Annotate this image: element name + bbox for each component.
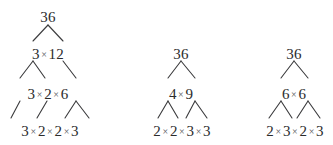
factor-value: 9 bbox=[185, 86, 193, 102]
multiplication-sign: × bbox=[177, 89, 186, 100]
factor-value: 3 bbox=[71, 123, 79, 139]
link-right-6b-to-3 bbox=[308, 101, 320, 118]
tree-right-level-2: 2×3×2×3 bbox=[266, 124, 323, 140]
factor-value: 2 bbox=[266, 123, 274, 139]
link-mid-4-to-2b bbox=[168, 101, 178, 118]
factor-value: 2 bbox=[299, 123, 307, 139]
tree-middle-level-2: 2×2×3×3 bbox=[153, 124, 210, 140]
factor-tree-diagram: 36 3×12 3×2×6 3×2×2×3 36 4×9 2×2×3×3 36 … bbox=[0, 0, 333, 145]
tree-right-level-1: 6×6 bbox=[282, 87, 306, 103]
link-mid-9-to-3a bbox=[186, 101, 195, 118]
factor-value: 3 bbox=[21, 123, 29, 139]
factor-value: 6 bbox=[282, 86, 290, 102]
multiplication-sign: × bbox=[274, 126, 283, 137]
multiplication-sign: × bbox=[290, 89, 299, 100]
link-right-6a-to-2 bbox=[269, 101, 281, 118]
multiplication-sign: × bbox=[178, 126, 187, 137]
multiplication-sign: × bbox=[40, 49, 49, 60]
tree-right-root: 36 bbox=[286, 47, 301, 62]
factor-value: 6 bbox=[298, 86, 306, 102]
factor-value: 3 bbox=[32, 46, 40, 62]
link-left-l2-3-to-3 bbox=[11, 101, 20, 118]
link-mid-root-to-4 bbox=[168, 61, 181, 78]
link-mid-4-to-2a bbox=[158, 101, 168, 118]
link-right-6b-to-2 bbox=[297, 101, 308, 118]
link-right-root-to-6b bbox=[294, 61, 308, 78]
link-left-3-to-3 bbox=[20, 61, 33, 78]
multiplication-sign: × bbox=[35, 89, 44, 100]
link-left-3-to-2 bbox=[33, 61, 45, 78]
link-mid-9-to-3b bbox=[195, 101, 207, 118]
link-left-root-to-12 bbox=[48, 25, 63, 41]
multiplication-sign: × bbox=[29, 126, 38, 137]
link-left-12-to-6 bbox=[63, 61, 76, 78]
tree-middle-level-1: 4×9 bbox=[169, 87, 193, 103]
multiplication-sign: × bbox=[307, 126, 316, 137]
multiplication-sign: × bbox=[194, 126, 203, 137]
factor-value: 2 bbox=[54, 123, 62, 139]
factor-value: 2 bbox=[153, 123, 161, 139]
link-right-6a-to-3 bbox=[281, 101, 292, 118]
factor-value: 3 bbox=[316, 123, 324, 139]
tree-left-level-2: 3×2×6 bbox=[28, 87, 69, 103]
factor-value: 3 bbox=[186, 123, 194, 139]
multiplication-sign: × bbox=[52, 89, 61, 100]
link-left-l2-6-to-3 bbox=[76, 101, 89, 118]
tree-middle-root: 36 bbox=[173, 47, 188, 62]
link-left-l2-6-to-2 bbox=[65, 101, 76, 118]
tree-left-root: 36 bbox=[40, 10, 55, 25]
link-mid-root-to-9 bbox=[181, 61, 195, 78]
multiplication-sign: × bbox=[161, 126, 170, 137]
factor-value: 3 bbox=[28, 86, 36, 102]
factor-value: 4 bbox=[169, 86, 177, 102]
tree-left-level-1: 3×12 bbox=[32, 47, 64, 63]
factor-value: 3 bbox=[203, 123, 211, 139]
tree-left-level-3: 3×2×2×3 bbox=[21, 124, 78, 140]
multiplication-sign: × bbox=[62, 126, 71, 137]
factor-value: 6 bbox=[61, 86, 69, 102]
link-right-root-to-6a bbox=[281, 61, 294, 78]
link-left-l2-2-to-2 bbox=[37, 101, 47, 118]
link-left-root-to-3 bbox=[33, 25, 48, 41]
multiplication-sign: × bbox=[291, 126, 300, 137]
multiplication-sign: × bbox=[46, 126, 55, 137]
factor-value: 12 bbox=[49, 46, 64, 62]
